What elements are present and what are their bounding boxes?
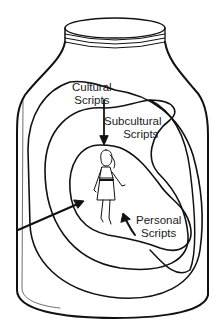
arrow-left	[18, 200, 84, 230]
woman-figure	[94, 150, 125, 224]
subcultural-label: Subcultural Scripts	[104, 115, 162, 141]
jar-lid	[65, 18, 165, 48]
personal-label-line2: Scripts	[136, 227, 181, 240]
subcultural-label-line1: Subcultural	[104, 115, 162, 128]
personal-label: Personal Scripts	[136, 214, 181, 240]
personal-label-line1: Personal	[136, 214, 181, 227]
arrow-personal	[121, 213, 135, 235]
cultural-label-line2: Scripts	[72, 94, 112, 107]
jar-diagram	[0, 0, 223, 331]
cultural-label: Cultural Scripts	[72, 81, 112, 107]
subcultural-label-line2: Scripts	[104, 128, 162, 141]
cultural-label-line1: Cultural	[72, 81, 112, 94]
